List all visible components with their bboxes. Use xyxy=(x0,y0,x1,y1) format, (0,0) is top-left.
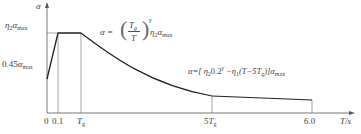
f1-tail: η2αmax xyxy=(150,28,173,38)
x-axis-label: T/s xyxy=(340,117,351,126)
sub: max xyxy=(275,71,285,77)
coef: 0.45 xyxy=(2,59,18,69)
f1-numerator: Tg xyxy=(129,21,137,31)
f2-rest: −η xyxy=(224,66,236,76)
f1-lhs: α = xyxy=(100,28,113,37)
rise-and-plateau xyxy=(47,33,81,79)
tick-tg: Tg xyxy=(77,117,85,127)
max-sub: max xyxy=(17,25,27,31)
tick-5tg: 5Tg xyxy=(204,117,217,127)
max-sub: max xyxy=(162,32,172,38)
y-axis-label: α xyxy=(36,2,41,11)
eta2-amax-label: η2αmax xyxy=(5,21,28,31)
g-sub: g xyxy=(82,121,85,127)
tick-0: 0 xyxy=(44,117,49,126)
fraction-bar xyxy=(128,31,140,32)
f2-mid: 0.2 xyxy=(211,66,222,76)
max-sub: max xyxy=(22,64,32,70)
gamma-exp: γ xyxy=(149,17,152,24)
f2-start: α=[ η xyxy=(188,66,208,76)
tick-0-1: 0.1 xyxy=(52,117,63,126)
g-sub: g xyxy=(214,121,217,127)
f2-paren: (T−5T xyxy=(239,66,261,76)
f2-close: )]α xyxy=(264,66,275,76)
response-spectrum-diagram: α η2αmax 0.45αmax 0 0.1 Tg 5Tg 6.0 T/s α… xyxy=(0,0,361,134)
tick-6: 6.0 xyxy=(304,117,315,126)
left-paren: ( xyxy=(120,18,127,40)
spectrum-plot xyxy=(0,0,361,134)
x-axis-arrow-icon xyxy=(349,111,355,115)
linear-decay xyxy=(212,96,312,100)
formula-linear-decay: α=[ η20.2γ −η1(T−5Tg)]αmax xyxy=(188,65,285,77)
y-axis-arrow-icon xyxy=(45,2,49,8)
045-amax-label: 0.45αmax xyxy=(2,60,33,70)
f1-denominator: T xyxy=(131,34,136,43)
